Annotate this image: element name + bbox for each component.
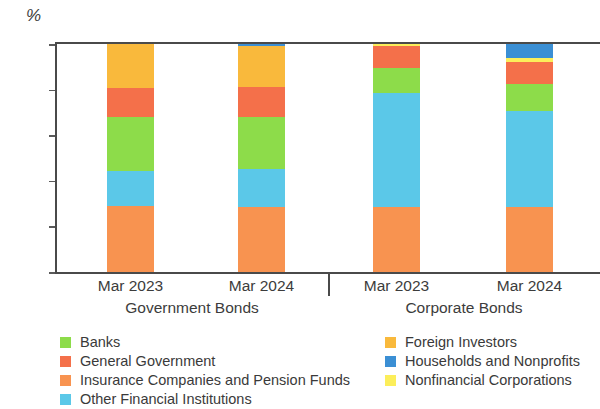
legend-label: Foreign Investors [405, 334, 517, 350]
bar-segment [373, 68, 420, 93]
y-tick-100 [49, 44, 55, 46]
bar-segment [506, 44, 553, 58]
plot-area: 020406080100 [55, 44, 600, 272]
legend-label: Nonfinancial Corporations [405, 372, 572, 388]
legend-item[interactable]: General Government [60, 352, 350, 370]
bar-segment [107, 206, 154, 272]
bar-segment [506, 207, 553, 272]
legend-swatch-icon [60, 375, 71, 386]
y-tick-60 [49, 135, 55, 137]
x-axis-label-1: Mar 2023 [76, 277, 186, 295]
legend-column-right: Foreign InvestorsHouseholds and Nonprofi… [385, 333, 580, 390]
x-axis-label-3: Mar 2023 [342, 277, 452, 295]
legend-item[interactable]: Households and Nonprofits [385, 352, 580, 370]
bar-segment [107, 44, 154, 88]
legend-item[interactable]: Banks [60, 333, 350, 351]
legend-swatch-icon [60, 394, 71, 405]
group-divider [328, 272, 330, 296]
legend-column-left: BanksGeneral GovernmentInsurance Compani… [60, 333, 350, 409]
bar-segment [373, 46, 420, 68]
bar-4 [506, 44, 553, 272]
bar-segment [506, 111, 553, 207]
legend-swatch-icon [385, 375, 396, 386]
legend-swatch-icon [385, 337, 396, 348]
legend-item[interactable]: Nonfinancial Corporations [385, 371, 580, 389]
y-tick-20 [49, 226, 55, 228]
bar-segment [506, 62, 553, 84]
group-label-1: Government Bonds [57, 299, 327, 317]
bar-segment [238, 169, 285, 207]
legend-label: Households and Nonprofits [405, 353, 580, 369]
bar-segment [107, 171, 154, 206]
bar-segment [238, 46, 285, 87]
bar-segment [107, 88, 154, 117]
legend-label: Other Financial Institutions [80, 391, 252, 407]
bar-segment [238, 207, 285, 272]
legend-item[interactable]: Insurance Companies and Pension Funds [60, 371, 350, 389]
x-axis-label-4: Mar 2024 [475, 277, 585, 295]
bar-segment [373, 207, 420, 272]
legend-swatch-icon [385, 356, 396, 367]
bar-2 [238, 44, 285, 272]
y-tick-80 [49, 90, 55, 92]
legend-label: Insurance Companies and Pension Funds [80, 372, 350, 388]
y-axis-unit-label: % [26, 6, 42, 26]
legend-item[interactable]: Foreign Investors [385, 333, 580, 351]
legend-label: Banks [80, 334, 120, 350]
y-tick-40 [49, 181, 55, 183]
group-label-2: Corporate Bonds [329, 299, 599, 317]
bar-3 [373, 44, 420, 272]
y-tick-0 [49, 272, 55, 274]
bar-segment [506, 84, 553, 111]
bar-1 [107, 44, 154, 272]
x-axis-label-2: Mar 2024 [207, 277, 317, 295]
legend-swatch-icon [60, 337, 71, 348]
legend-item[interactable]: Other Financial Institutions [60, 390, 350, 408]
bar-segment [107, 117, 154, 171]
bar-segment [238, 117, 285, 169]
legend-label: General Government [80, 353, 215, 369]
legend-swatch-icon [60, 356, 71, 367]
y-axis-line [55, 42, 57, 274]
bar-segment [238, 87, 285, 117]
bar-segment [373, 93, 420, 207]
